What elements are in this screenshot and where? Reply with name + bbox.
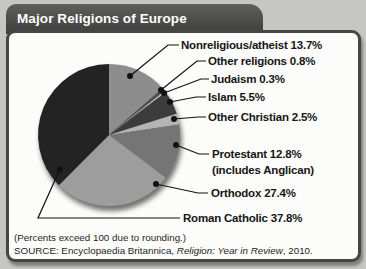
- callout-dot-other-christian: [171, 116, 177, 122]
- callout-dot-orthodox: [153, 181, 159, 187]
- slice-label-orthodox: Orthodox 27.4%: [211, 187, 296, 199]
- callout-line-judaism: [164, 79, 209, 93]
- source-prefix: SOURCE: Encyclopaedia Britannica,: [14, 245, 177, 256]
- slice-label-other-religions: Other religions 0.8%: [208, 55, 315, 67]
- source-line: SOURCE: Encyclopaedia Britannica, Religi…: [14, 244, 349, 257]
- source-title: Religion: Year in Review: [177, 245, 283, 256]
- slice-label-islam: Islam 5.5%: [208, 91, 265, 103]
- source-suffix: , 2010.: [283, 245, 313, 256]
- callout-dot-judaism: [161, 90, 167, 96]
- callout-line-islam: [170, 97, 206, 102]
- callout-line-other-christian: [174, 117, 206, 119]
- slice-label-protestant: Protestant 12.8%: [212, 148, 301, 160]
- slice-label-nonreligious-atheist: Nonreligious/atheist 13.7%: [181, 39, 322, 51]
- callout-dot-roman-catholic: [57, 166, 63, 172]
- slice-note-protestant: (includes Anglican): [212, 164, 314, 176]
- slice-label-roman-catholic: Roman Catholic 37.8%: [183, 212, 302, 224]
- chart-footer: (Percents exceed 100 due to rounding.) S…: [14, 231, 349, 257]
- callout-line-orthodox: [156, 184, 208, 193]
- callout-dot-protestant: [173, 142, 179, 148]
- callout-dot-islam: [167, 99, 173, 105]
- slice-label-other-christian: Other Christian 2.5%: [208, 111, 317, 123]
- footnote: (Percents exceed 100 due to rounding.): [14, 231, 349, 244]
- callout-dot-nonreligious-atheist: [127, 73, 133, 79]
- figure-major-religions-of-europe: Major Religions of Europe Nonreligious/a…: [0, 0, 366, 269]
- slice-label-judaism: Judaism 0.3%: [211, 73, 285, 85]
